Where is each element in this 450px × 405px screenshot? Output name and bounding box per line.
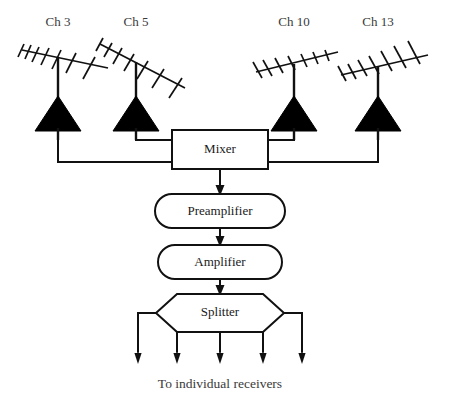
- feed-wire-ch13: [268, 131, 378, 162]
- amplifier-triangle-ch3: [35, 96, 81, 131]
- antenna-label-ch10: Ch 10: [278, 14, 309, 29]
- feed-wire-ch5: [136, 131, 172, 140]
- antenna-ch10: Ch 10: [253, 14, 338, 140]
- splitter-arm-right: [284, 313, 302, 352]
- splitter-arm-left: [138, 313, 156, 352]
- antenna-ch5: Ch 5: [96, 14, 185, 140]
- diagram-caption: To individual receivers: [158, 376, 282, 391]
- yagi-boom-ch5: [96, 38, 185, 98]
- amplifier-triangle-ch13: [355, 96, 401, 131]
- yagi-boom-ch10: [253, 50, 338, 78]
- antenna-label-ch13: Ch 13: [362, 14, 393, 29]
- stage-mixer: Mixer: [172, 130, 268, 169]
- yagi-boom-ch3: [18, 44, 108, 79]
- diagram-canvas: Ch 3 Ch 5: [0, 0, 450, 405]
- yagi-boom-ch13: [338, 41, 428, 81]
- splitter-label: Splitter: [201, 304, 240, 319]
- output-arrows: [134, 345, 305, 364]
- stage-splitter: Splitter: [156, 294, 284, 332]
- amplifier-triangle-ch10: [271, 96, 317, 131]
- output-arrow-2: [173, 345, 180, 364]
- antenna-label-ch3: Ch 3: [46, 14, 71, 29]
- output-arrow-3: [216, 345, 223, 364]
- amplifier-triangle-ch5: [113, 96, 159, 131]
- amplifier-label: Amplifier: [194, 254, 246, 269]
- antenna-ch13: Ch 13: [338, 14, 428, 140]
- stage-amplifier: Amplifier: [158, 245, 282, 279]
- preamplifier-label: Preamplifier: [188, 203, 254, 218]
- feed-wire-ch10: [268, 131, 294, 140]
- feed-wire-ch3: [58, 131, 172, 162]
- antenna-ch3: Ch 3: [18, 14, 108, 140]
- antenna-distribution-diagram: Ch 3 Ch 5: [0, 0, 450, 405]
- antenna-label-ch5: Ch 5: [124, 14, 149, 29]
- output-arrow-5: [298, 345, 305, 364]
- output-arrow-4: [259, 345, 266, 364]
- output-arrow-1: [134, 345, 141, 364]
- stage-preamplifier: Preamplifier: [155, 194, 285, 228]
- connector-mixer-to-preamplifier: [216, 169, 225, 196]
- mixer-label: Mixer: [204, 141, 236, 156]
